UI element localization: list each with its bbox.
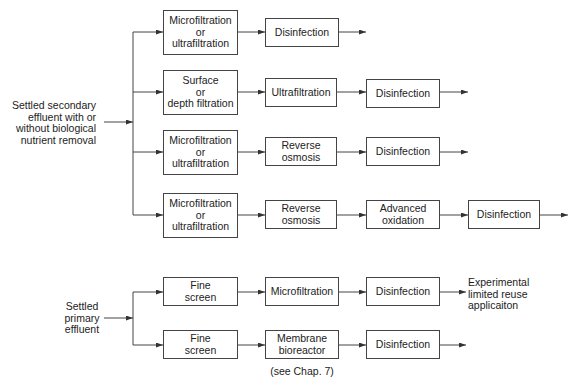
process-box: Disinfection bbox=[468, 200, 540, 229]
process-box: Membrane bioreactor bbox=[265, 330, 339, 359]
process-box: Microfiltration or ultrafiltration bbox=[163, 193, 238, 238]
process-box: Disinfection bbox=[366, 330, 440, 359]
process-box: Surface or depth filtration bbox=[163, 70, 238, 115]
process-box: Disinfection bbox=[366, 137, 440, 166]
chapter-note: (see Chap. 7) bbox=[262, 366, 342, 378]
process-box: Advanced oxidation bbox=[366, 200, 440, 229]
input-settled-secondary-effluent: Settled secondary effluent with or witho… bbox=[2, 100, 96, 146]
output-label: Experimental limited reuse applicaiton bbox=[468, 277, 548, 312]
process-box: Microfiltration bbox=[265, 277, 339, 306]
process-box: Disinfection bbox=[366, 79, 440, 108]
process-box: Fine screen bbox=[163, 277, 238, 306]
input-settled-primary-effluent: Settled primary effluent bbox=[62, 301, 102, 336]
process-box: Microfiltration or ultrafiltration bbox=[163, 130, 238, 175]
process-box: Ultrafiltration bbox=[265, 78, 337, 107]
process-box: Fine screen bbox=[163, 330, 238, 359]
process-box: Disinfection bbox=[366, 277, 440, 306]
process-box: Microfiltration or ultrafiltration bbox=[163, 10, 238, 55]
process-box: Reverse osmosis bbox=[265, 200, 337, 229]
process-box: Reverse osmosis bbox=[265, 137, 337, 166]
process-box: Disinfection bbox=[265, 18, 339, 47]
